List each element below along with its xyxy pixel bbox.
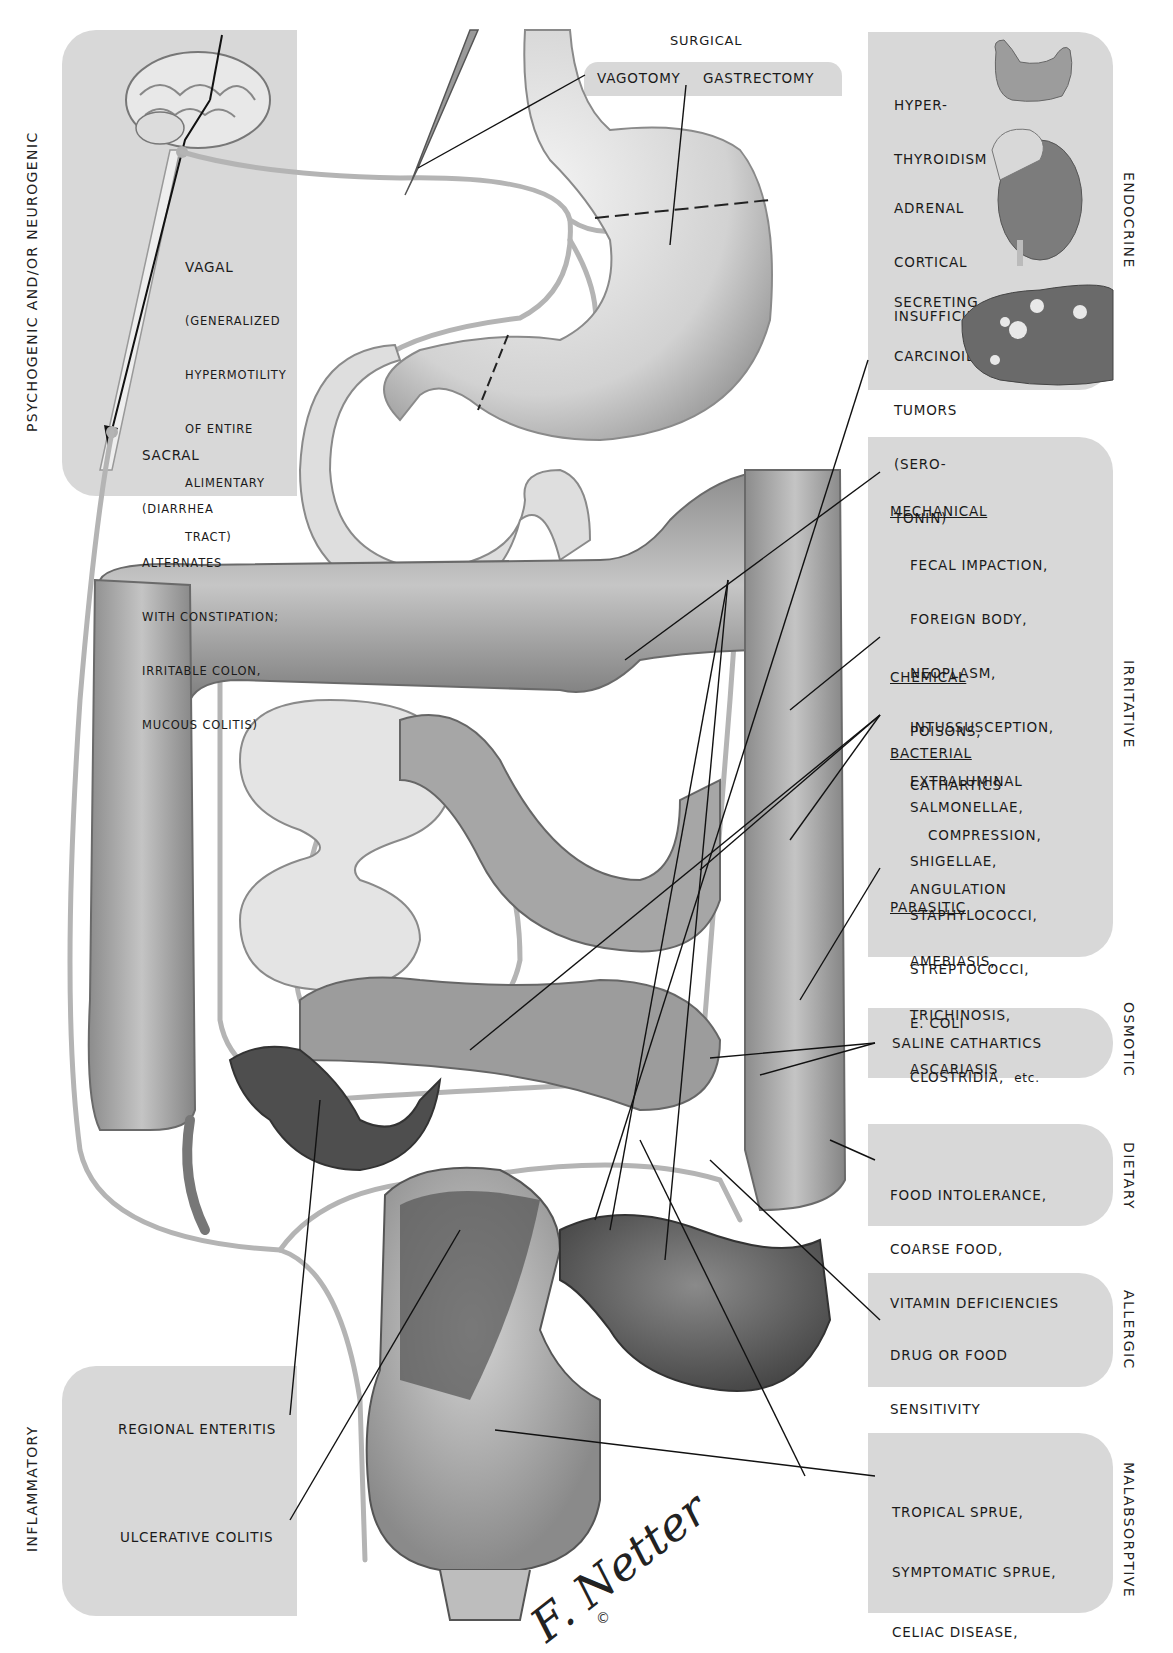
- malabsorptive-line: CELIAC DISEASE,: [892, 1622, 1057, 1642]
- endocrine-line: TUMORS: [894, 401, 978, 419]
- copyright-symbol: ©: [596, 1610, 610, 1626]
- category-label-endocrine: ENDOCRINE: [1121, 172, 1137, 269]
- category-label-dietary: DIETARY: [1121, 1142, 1137, 1210]
- malabsorptive-items: TROPICAL SPRUE, SYMPTOMATIC SPRUE, CELIA…: [892, 1462, 1057, 1653]
- bacterial-heading: BACTERIAL: [890, 744, 1040, 762]
- category-label-surgical: SURGICAL: [670, 32, 742, 50]
- dietary-line: FOOD INTOLERANCE,: [890, 1186, 1059, 1204]
- allergic-line: DRUG OR FOOD: [890, 1346, 1008, 1364]
- surgical-item-vagotomy: VAGOTOMY: [597, 69, 681, 87]
- allergic-line: SENSITIVITY: [890, 1400, 1008, 1418]
- mechanical-line: FECAL IMPACTION,: [890, 556, 1054, 574]
- vagal-line: HYPERMOTILITY: [185, 366, 287, 384]
- inflammatory-item-regional-enteritis: REGIONAL ENTERITIS: [118, 1420, 276, 1438]
- parasitic-line: ASCARIASIS: [890, 1060, 1011, 1078]
- endocrine-line: ADRENAL: [894, 199, 1006, 217]
- irritative-group-parasitic: PARASITIC AMEBIASIS, TRICHINOSIS, ASCARI…: [890, 862, 1011, 1096]
- parasitic-heading: PARASITIC: [890, 898, 1011, 916]
- mechanical-heading: MECHANICAL: [890, 502, 1054, 520]
- sacral-label: SACRAL (DIARRHEA ALTERNATES WITH CONSTIP…: [142, 410, 279, 752]
- sacral-line: ALTERNATES: [142, 554, 279, 572]
- category-label-psychogenic: PSYCHOGENIC AND/OR NEUROGENIC: [24, 131, 40, 432]
- brain-icon: [126, 52, 270, 148]
- sacral-line: IRRITABLE COLON,: [142, 662, 279, 680]
- vagal-line: (GENERALIZED: [185, 312, 287, 330]
- chemical-heading: CHEMICAL: [890, 668, 1002, 686]
- category-label-osmotic: OSMOTIC: [1121, 1002, 1137, 1077]
- allergic-items: DRUG OR FOOD SENSITIVITY: [890, 1310, 1008, 1436]
- endocrine-line: HYPER-: [894, 96, 987, 114]
- category-label-malabsorptive: MALABSORPTIVE: [1121, 1462, 1137, 1598]
- endocrine-line: CARCINOID: [894, 347, 978, 365]
- sacral-line: MUCOUS COLITIS): [142, 716, 279, 734]
- vagal-heading: VAGAL: [185, 258, 287, 276]
- bacterial-etc: etc.: [1014, 1071, 1040, 1085]
- category-label-inflammatory: INFLAMMATORY: [24, 1425, 40, 1552]
- malabsorptive-line: SYMPTOMATIC SPRUE,: [892, 1562, 1057, 1582]
- category-label-allergic: ALLERGIC: [1121, 1290, 1137, 1370]
- malabsorptive-line: TROPICAL SPRUE,: [892, 1502, 1057, 1522]
- bacterial-line: SALMONELLAE,: [890, 798, 1040, 816]
- parasitic-line: AMEBIASIS,: [890, 952, 1011, 970]
- endocrine-line: SECRETING: [894, 293, 978, 311]
- sacral-line: WITH CONSTIPATION;: [142, 608, 279, 626]
- surgical-item-gastrectomy: GASTRECTOMY: [703, 69, 814, 87]
- category-label-irritative: IRRITATIVE: [1121, 660, 1137, 749]
- dietary-items: FOOD INTOLERANCE, COARSE FOOD, VITAMIN D…: [890, 1150, 1059, 1330]
- mechanical-line: FOREIGN BODY,: [890, 610, 1054, 628]
- sacral-heading: SACRAL: [142, 446, 279, 464]
- dietary-line: COARSE FOOD,: [890, 1240, 1059, 1258]
- scalpel-icon: [405, 30, 478, 195]
- parasitic-line: TRICHINOSIS,: [890, 1006, 1011, 1024]
- osmotic-item: SALINE CATHARTICS: [892, 1034, 1042, 1052]
- inflammatory-item-ulcerative-colitis: ULCERATIVE COLITIS: [120, 1528, 273, 1546]
- sacral-line: (DIARRHEA: [142, 500, 279, 518]
